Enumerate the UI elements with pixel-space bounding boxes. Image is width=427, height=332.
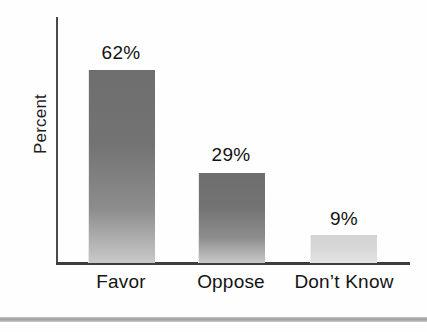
y-axis-line	[56, 17, 58, 265]
y-axis-title: Percent	[31, 79, 51, 169]
bar-value-label-dont-know: 9%	[304, 208, 384, 230]
bar-dont-know	[310, 235, 377, 263]
x-axis-tick-label-oppose: Oppose	[181, 271, 281, 293]
x-axis-tick-label-dont-know: Don’t Know	[288, 271, 400, 293]
bar-favor	[88, 70, 155, 263]
page-divider-rule	[0, 317, 427, 322]
bar-value-label-favor: 62%	[81, 42, 161, 64]
bar-value-label-oppose: 29%	[191, 144, 271, 166]
x-axis-tick-label-favor: Favor	[71, 271, 171, 293]
bar-oppose	[198, 173, 265, 263]
bar-chart-figure: Percent 62% 29% 9% Favor Oppose Don’t Kn…	[0, 0, 427, 332]
